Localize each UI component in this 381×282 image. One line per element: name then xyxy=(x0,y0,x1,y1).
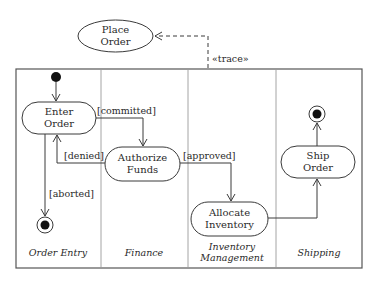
action-ship-order[interactable]: Ship Order xyxy=(281,146,355,178)
flow-allocate-to-ship xyxy=(268,179,317,218)
trace-stereotype-label: «trace» xyxy=(212,53,249,64)
action-label-line2: Inventory xyxy=(205,219,254,230)
action-label-line1: Ship xyxy=(307,150,330,161)
guard-committed: [committed] xyxy=(97,105,156,116)
final-node-aborted-icon[interactable] xyxy=(37,217,53,233)
guard-aborted: [aborted] xyxy=(49,188,94,199)
swimlane-finance[interactable]: Finance xyxy=(124,247,164,258)
action-allocate-inventory[interactable]: Allocate Inventory xyxy=(191,202,268,236)
activity-diagram: Place Order «trace» Order Entry Finance … xyxy=(0,0,381,282)
trace-dashed-arrow xyxy=(155,36,208,68)
swimlane-shipping[interactable]: Shipping xyxy=(297,247,340,258)
guard-denied: [denied] xyxy=(64,150,104,161)
use-case-place-order[interactable]: Place Order xyxy=(78,20,153,52)
use-case-label-line1: Place xyxy=(102,24,129,35)
final-node-shipped-icon[interactable] xyxy=(309,106,325,122)
action-label-line2: Order xyxy=(44,118,74,129)
trace-dependency: «trace» xyxy=(155,36,249,68)
action-label-line1: Allocate xyxy=(208,207,250,218)
initial-node-icon[interactable] xyxy=(51,72,61,82)
swimlane-label-line2: Management xyxy=(199,252,264,263)
swimlane-label: Order Entry xyxy=(29,247,88,258)
action-label-line2: Funds xyxy=(127,164,158,175)
swimlane-label-line1: Inventory xyxy=(208,241,256,252)
guard-approved: [approved] xyxy=(183,150,236,161)
action-enter-order[interactable]: Enter Order xyxy=(22,102,96,134)
action-label-line1: Authorize xyxy=(117,152,167,163)
use-case-label-line2: Order xyxy=(100,36,130,47)
swimlane-order-entry[interactable]: Order Entry xyxy=(29,247,88,258)
swimlane-inventory-management[interactable]: Inventory Management xyxy=(199,241,264,263)
action-authorize-funds[interactable]: Authorize Funds xyxy=(105,147,180,181)
swimlane-label: Finance xyxy=(124,247,164,258)
action-label-line2: Order xyxy=(303,162,333,173)
action-label-line1: Enter xyxy=(45,106,74,117)
flow-committed xyxy=(96,118,143,146)
swimlane-label: Shipping xyxy=(297,247,340,258)
